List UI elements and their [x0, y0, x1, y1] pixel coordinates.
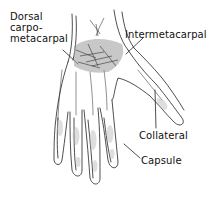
- label-intermetacarpal: Intermetacarpal: [125, 29, 207, 40]
- leader-intermetacarpal: [126, 38, 143, 54]
- hand-ligament-diagram: Dorsal carpo- metacarpal Intermetacarpal…: [0, 0, 209, 199]
- leader-collateral: [155, 90, 156, 128]
- label-capsule: Capsule: [141, 155, 182, 166]
- label-collateral: Collateral: [139, 130, 188, 141]
- label-dorsal-carpometacarpal: Dorsal carpo- metacarpal: [10, 11, 68, 44]
- little-finger-outline: [54, 62, 68, 165]
- leader-capsule: [124, 144, 140, 158]
